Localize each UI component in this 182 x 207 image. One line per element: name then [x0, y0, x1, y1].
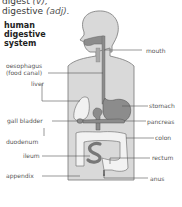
oesophagus-tube: [102, 36, 105, 104]
label-liver: liver: [31, 80, 44, 87]
label-gall-bladder: gall bladder: [7, 117, 43, 124]
trachea: [96, 48, 100, 62]
label-anus: anus: [150, 175, 164, 182]
label-oesophagus: oesophagus: [6, 62, 42, 69]
pancreas-organ: [83, 119, 125, 123]
label-pancreas: pancreas: [147, 118, 174, 125]
label-mouth: mouth: [146, 47, 165, 54]
label-ileum: ileum: [23, 152, 40, 159]
label-colon: colon: [155, 134, 171, 141]
head-silhouette: [80, 11, 118, 52]
label-stomach: stomach: [149, 102, 175, 109]
label-appendix: appendix: [6, 172, 34, 179]
label-duodenum: duodenum: [6, 138, 38, 145]
label-rectum: rectum: [152, 154, 173, 161]
label-food-canal: (food canal): [6, 69, 42, 76]
